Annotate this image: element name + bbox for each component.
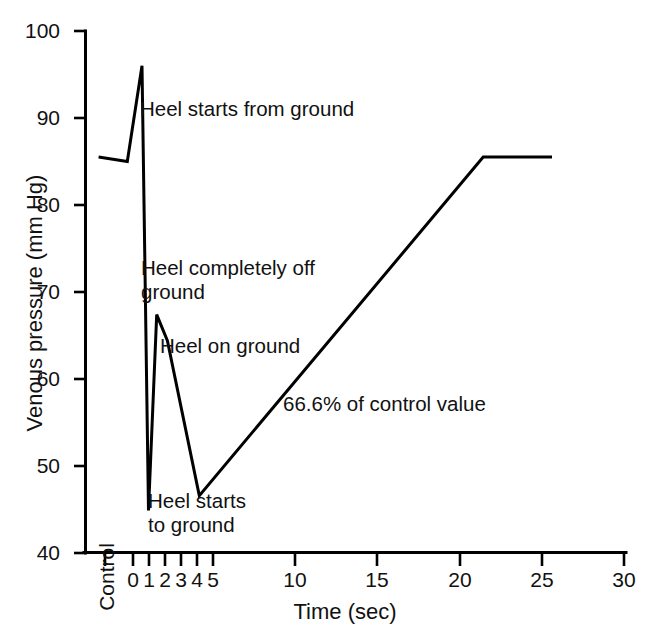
x-tick-label-20: 20 xyxy=(440,569,480,590)
annotation-percent-of-control-value: 66.6% of control value xyxy=(283,392,486,416)
y-axis-title: Venous pressure (mm Hg) xyxy=(22,133,48,473)
annotation-heel-starts-to-ground: Heel starts to ground xyxy=(148,489,246,537)
x-tick-label-15: 15 xyxy=(357,569,397,590)
x-tick-label-25: 25 xyxy=(522,569,562,590)
annotation-heel-on-ground: Heel on ground xyxy=(160,334,300,358)
annotation-heel-completely-off-ground: Heel completely off ground xyxy=(141,256,315,304)
x-axis-ticks xyxy=(105,553,624,566)
x-tick-label-10: 10 xyxy=(275,569,315,590)
venous-pressure-chart: 100 90 80 70 60 50 40 Control 0 1 2 3 4 … xyxy=(0,0,648,643)
x-tick-label-30: 30 xyxy=(604,569,644,590)
y-tick-label-40: 40 xyxy=(0,542,60,563)
annotation-heel-starts-from-ground: Heel starts from ground xyxy=(140,97,354,121)
y-axis-ticks xyxy=(74,31,86,553)
x-tick-label-5: 5 xyxy=(193,569,233,590)
y-tick-label-90: 90 xyxy=(0,107,60,128)
y-tick-label-100: 100 xyxy=(0,20,60,41)
x-axis-title: Time (sec) xyxy=(255,599,435,625)
